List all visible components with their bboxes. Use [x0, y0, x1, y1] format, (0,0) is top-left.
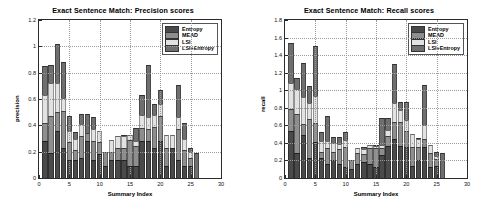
- bar-segment: [337, 149, 342, 164]
- bar-segment: [176, 117, 181, 129]
- y-tick-label: 0.2: [274, 157, 285, 163]
- bar-segment: [416, 147, 421, 160]
- bar-segment: [73, 160, 78, 178]
- bar-segment: [121, 136, 126, 148]
- bar-segment: [48, 153, 53, 178]
- bar-segment: [398, 110, 403, 122]
- legend-label: MEAD: [182, 33, 198, 38]
- x-tick-label: 25: [188, 178, 194, 187]
- bar-segment: [158, 104, 163, 116]
- legend-item: LSI+Entropy: [411, 46, 460, 53]
- legend-recall: EntropyMEADLSILSI+Entropy: [408, 23, 464, 55]
- legend-precision: EntropyMEADLSILSI+Entropy: [162, 23, 218, 55]
- bar-segment: [109, 152, 114, 160]
- y-tick-label: 1.2: [28, 17, 39, 23]
- bar-segment: [398, 102, 403, 110]
- bar-segment: [331, 160, 336, 178]
- bar-segment: [398, 146, 403, 178]
- stacked-bar: [398, 20, 403, 178]
- bar-segment: [79, 114, 84, 125]
- bar-segment: [115, 136, 120, 148]
- bar-segment: [79, 136, 84, 158]
- bar-segment: [428, 145, 433, 153]
- bar-segment: [176, 129, 181, 159]
- y-tick-label: 0.8: [274, 105, 285, 111]
- bar-segment: [146, 129, 151, 141]
- bar-segment: [42, 141, 47, 178]
- xaxis-label-recall: Summary Index: [284, 191, 468, 197]
- bar-segment: [73, 150, 78, 159]
- chart-title-recall: Exact Sentence Match: Recall scores: [246, 6, 492, 15]
- y-tick-mark: [39, 99, 42, 100]
- bar-segment: [325, 116, 330, 141]
- y-tick-label: 0.2: [28, 149, 39, 155]
- bar-segment: [398, 122, 403, 147]
- stacked-bar: [133, 20, 138, 178]
- stacked-bar: [319, 20, 324, 178]
- y-tick-mark: [285, 73, 288, 74]
- bar-segment: [301, 97, 306, 124]
- bar-segment: [182, 123, 187, 139]
- bar-segment: [410, 166, 415, 178]
- legend-label: MEAD: [428, 33, 444, 38]
- bar-segment: [158, 90, 163, 104]
- bar-segment: [343, 132, 348, 140]
- bar-segment: [379, 155, 384, 178]
- bar-segment: [61, 62, 66, 98]
- stacked-bar: [61, 20, 66, 178]
- figure-container: Exact Sentence Match: Precision scores E…: [0, 0, 493, 206]
- yaxis-label-precision: precision: [14, 95, 20, 122]
- bar-segment: [55, 131, 60, 178]
- legend-label: LSI+Entropy: [182, 46, 214, 51]
- bar-segment: [379, 118, 384, 144]
- stacked-bar: [288, 20, 293, 178]
- bar-segment: [373, 148, 378, 167]
- precision-plot-area: EntropyMEADLSILSI+Entropy 00.20.40.60.81…: [38, 19, 222, 179]
- y-tick-mark: [39, 125, 42, 126]
- bar-segment: [146, 141, 151, 178]
- bar-segment: [182, 166, 187, 178]
- stacked-bar: [343, 20, 348, 178]
- bar-segment: [325, 148, 330, 164]
- bar-segment: [182, 139, 187, 151]
- bar-segment: [67, 142, 72, 159]
- chart-title-precision: Exact Sentence Match: Precision scores: [0, 6, 246, 15]
- bar-segment: [170, 148, 175, 178]
- x-tick-label: 10: [343, 178, 349, 187]
- bar-segment: [182, 150, 187, 166]
- bar-segment: [301, 135, 306, 178]
- bar-segment: [103, 166, 108, 178]
- bar-segment: [48, 116, 53, 153]
- bar-segment: [133, 146, 138, 166]
- bar-segment: [319, 141, 324, 152]
- bar-segment: [109, 140, 114, 152]
- bar-segment: [139, 128, 144, 141]
- bar-segment: [294, 89, 299, 114]
- bar-segment: [152, 148, 157, 178]
- stacked-bar: [97, 20, 102, 178]
- y-tick-mark: [285, 160, 288, 161]
- bar-segment: [385, 136, 390, 147]
- stacked-bar: [349, 20, 354, 178]
- stacked-bar: [294, 20, 299, 178]
- bar-segment: [194, 153, 199, 178]
- bar-segment: [313, 123, 318, 142]
- bar-segment: [361, 154, 366, 162]
- bar-segment: [91, 117, 96, 129]
- stacked-bar: [325, 20, 330, 178]
- stacked-bar: [139, 20, 144, 178]
- y-tick-mark: [39, 20, 42, 21]
- bar-segment: [127, 140, 132, 166]
- bar-segment: [139, 115, 144, 128]
- stacked-bar: [331, 20, 336, 178]
- stacked-bar: [115, 20, 120, 178]
- bar-segment: [79, 158, 84, 178]
- x-tick-label: 15: [127, 178, 133, 187]
- bar-segment: [361, 162, 366, 178]
- x-tick-label: 5: [68, 178, 71, 187]
- y-tick-mark: [285, 90, 288, 91]
- bar-segment: [42, 66, 47, 95]
- stacked-bar: [42, 20, 47, 178]
- bar-segment: [392, 64, 397, 103]
- bar-segment: [422, 125, 427, 138]
